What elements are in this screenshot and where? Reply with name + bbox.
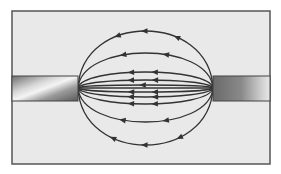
magnetic-field-diagram	[0, 0, 281, 174]
right-magnet	[213, 76, 270, 101]
left-magnet	[12, 76, 78, 101]
field-lines-canvas	[0, 0, 281, 174]
